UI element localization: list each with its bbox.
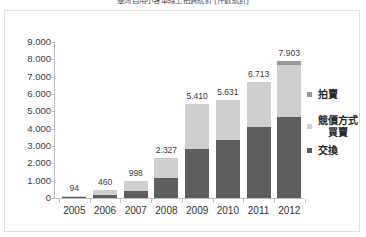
x-tick-mark [59,199,60,203]
bar-total-label: 6.713 [236,70,282,79]
legend-item[interactable]: 競價方式買賣 [307,115,358,138]
x-tick-mark [305,199,306,203]
bar-segment-exchange[interactable] [93,195,117,198]
x-tick-mark [151,199,152,203]
y-tick-label: 0 [11,193,51,203]
x-tick-mark [182,199,183,203]
y-tick-mark [49,42,54,43]
y-tick-label: 5.000 [11,106,51,116]
x-tick-mark [120,199,121,203]
y-tick-mark [49,59,54,60]
y-tick-mark [49,163,54,164]
x-tick-mark [213,199,214,203]
chart-frame: 01.0002.0003.0004.0005.0006.0007.0008.00… [4,10,360,232]
bar-total-label: 7.903 [266,49,312,58]
bar-total-label: 460 [82,178,128,187]
x-tick-mark [243,199,244,203]
y-tick-mark [49,94,54,95]
y-tick-label: 8.000 [11,54,51,64]
y-tick-mark [49,111,54,112]
bar-segment-bidding[interactable] [154,158,178,178]
y-tick-mark [49,129,54,130]
x-tick-mark [274,199,275,203]
bar-total-label: 998 [113,169,159,178]
bar-column[interactable] [277,11,301,198]
y-tick-mark [49,77,54,78]
legend-swatch-icon [307,148,312,153]
y-tick-label: 1.000 [11,176,51,186]
legend-swatch-icon [307,124,312,129]
bar-segment-exchange[interactable] [277,117,301,198]
bar-segment-exchange[interactable] [62,197,86,198]
chart-figure: 臺灣自用小客車線上拍賣統計 (件數統計) 01.0002.0003.0004.0… [0,0,366,237]
x-axis-line [49,198,303,199]
bar-segment-exchange[interactable] [154,178,178,198]
bar-segment-auction[interactable] [277,61,301,65]
bar-column[interactable] [62,11,86,198]
y-tick-label: 2.000 [11,158,51,168]
legend-item[interactable]: 交換 [307,145,338,157]
bar-segment-exchange[interactable] [247,127,271,198]
bar-segment-bidding[interactable] [247,82,271,128]
legend-label: 交換 [318,145,338,157]
legend-swatch-icon [307,92,312,97]
y-tick-label: 6.000 [11,89,51,99]
bar-segment-exchange[interactable] [124,191,148,198]
bar-segment-bidding[interactable] [216,100,240,140]
bar-total-label: 5.631 [205,88,251,97]
bar-segment-exchange[interactable] [185,149,209,198]
bar-column[interactable] [247,11,271,198]
bar-total-label: 2.327 [143,146,189,155]
legend-label: 拍賣 [318,89,338,101]
y-tick-mark [49,181,54,182]
bar-segment-bidding[interactable] [277,65,301,117]
x-tick-label: 2012 [269,205,309,216]
chart-title: 臺灣自用小客車線上拍賣統計 (件數統計) [0,0,366,7]
y-axis: 01.0002.0003.0004.0005.0006.0007.0008.00… [7,11,51,233]
bar-segment-exchange[interactable] [216,140,240,198]
y-axis-line [54,42,55,199]
bar-column[interactable] [216,11,240,198]
bar-segment-bidding[interactable] [62,196,86,197]
y-tick-label: 7.000 [11,72,51,82]
legend-label: 競價方式買賣 [318,115,358,138]
legend-label-line2: 買賣 [318,127,358,139]
y-tick-label: 9.000 [11,37,51,47]
bar-segment-bidding[interactable] [93,190,117,195]
x-tick-mark [90,199,91,203]
legend-item[interactable]: 拍賣 [307,89,338,101]
bar-column[interactable] [154,11,178,198]
bar-segment-bidding[interactable] [124,181,148,192]
bar-segment-bidding[interactable] [185,104,209,149]
y-tick-label: 3.000 [11,141,51,151]
y-tick-mark [49,198,54,199]
y-tick-label: 4.000 [11,124,51,134]
y-tick-mark [49,146,54,147]
bar-column[interactable] [185,11,209,198]
